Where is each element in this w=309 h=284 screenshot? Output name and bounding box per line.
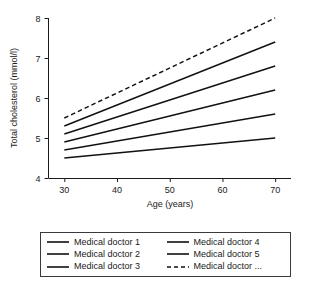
- series-group: [64, 18, 275, 158]
- series-line-6: [64, 18, 275, 118]
- legend-item-label: Medical doctor 4: [194, 238, 260, 247]
- solid-line-icon: [167, 250, 189, 258]
- legend-item[interactable]: Medical doctor ...: [167, 262, 287, 271]
- series-line-4: [64, 66, 275, 134]
- y-tick-label: 4: [35, 174, 40, 184]
- legend-item[interactable]: Medical doctor 1: [47, 238, 167, 247]
- legend-item[interactable]: Medical doctor 2: [47, 250, 167, 259]
- series-line-2: [64, 114, 275, 150]
- y-tick-label: 8: [35, 14, 40, 24]
- legend: Medical doctor 1Medical doctor 4Medical …: [40, 232, 291, 277]
- x-axis-title: Age (years): [147, 199, 194, 209]
- series-line-1: [64, 138, 275, 158]
- dashed-line-icon: [167, 263, 189, 271]
- x-tick-label: 60: [217, 185, 227, 195]
- legend-grid: Medical doctor 1Medical doctor 4Medical …: [41, 233, 290, 276]
- legend-item-label: Medical doctor 1: [74, 238, 140, 247]
- x-tick-group: 3040506070: [59, 178, 280, 195]
- y-axis-title: Total cholesterol (mmol/l): [9, 48, 19, 148]
- axes-group: [49, 18, 292, 179]
- chart-figure: 45678 3040506070 Total cholesterol (mmol…: [0, 0, 309, 284]
- legend-item-label: Medical doctor ...: [194, 262, 263, 271]
- legend-item[interactable]: Medical doctor 3: [47, 262, 167, 271]
- series-line-5: [64, 42, 275, 126]
- solid-line-icon: [167, 238, 189, 246]
- x-tick-label: 50: [165, 185, 175, 195]
- legend-item-label: Medical doctor 2: [74, 250, 140, 259]
- x-tick-label: 70: [270, 185, 280, 195]
- solid-line-icon: [47, 250, 69, 258]
- y-tick-label: 5: [35, 134, 40, 144]
- x-tick-label: 40: [112, 185, 122, 195]
- y-tick-label: 7: [35, 54, 40, 64]
- chart-canvas: 45678 3040506070 Total cholesterol (mmol…: [0, 0, 309, 215]
- solid-line-icon: [47, 263, 69, 271]
- plot-area: 45678 3040506070 Total cholesterol (mmol…: [0, 0, 309, 215]
- x-tick-label: 30: [59, 185, 69, 195]
- solid-line-icon: [47, 238, 69, 246]
- legend-item-label: Medical doctor 5: [194, 250, 260, 259]
- y-tick-label: 6: [35, 94, 40, 104]
- legend-item[interactable]: Medical doctor 5: [167, 250, 287, 259]
- legend-item[interactable]: Medical doctor 4: [167, 238, 287, 247]
- series-line-3: [64, 90, 275, 142]
- y-tick-group: 45678: [35, 14, 48, 184]
- legend-item-label: Medical doctor 3: [74, 262, 140, 271]
